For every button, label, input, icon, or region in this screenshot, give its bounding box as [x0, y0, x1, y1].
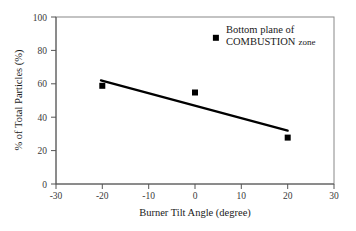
- data-point-1: [99, 83, 105, 89]
- y-tick-label-80: 80: [38, 46, 48, 56]
- legend-label-line1: Bottom plane of: [226, 24, 295, 35]
- y-tick-label-40: 40: [38, 113, 48, 123]
- x-tick-label-10: 10: [237, 191, 247, 201]
- chart-figure: 0 20 40 60 80 100 -30 -20 -10 0 10 20 30…: [0, 0, 356, 231]
- x-tick-label-minus30: -30: [50, 191, 63, 201]
- legend-label-zone: zone: [298, 37, 315, 47]
- legend-label-line2: COMBUSTIONzone: [226, 36, 315, 47]
- legend-label-caps: COMBUSTION: [226, 36, 296, 47]
- legend-marker-icon: [213, 35, 219, 41]
- y-tick-label-0: 0: [42, 180, 47, 190]
- y-tick-label-20: 20: [38, 146, 48, 156]
- y-axis-title: % of Total Particles (%): [13, 49, 25, 151]
- scatter-plot: 0 20 40 60 80 100 -30 -20 -10 0 10 20 30…: [0, 0, 356, 231]
- y-tick-label-60: 60: [38, 79, 48, 89]
- x-tick-label-20: 20: [283, 191, 293, 201]
- trend-line: [101, 80, 288, 130]
- x-tick-label-30: 30: [329, 191, 339, 201]
- y-axis-ticks: [51, 17, 56, 184]
- x-tick-label-0: 0: [193, 191, 198, 201]
- x-axis-ticks: [56, 184, 334, 189]
- x-tick-label-minus20: -20: [96, 191, 109, 201]
- x-tick-label-minus10: -10: [142, 191, 155, 201]
- data-point-2: [192, 90, 198, 96]
- x-axis-title: Burner Tilt Angle (degree): [139, 207, 251, 219]
- y-tick-label-100: 100: [33, 13, 48, 23]
- data-point-3: [285, 135, 291, 141]
